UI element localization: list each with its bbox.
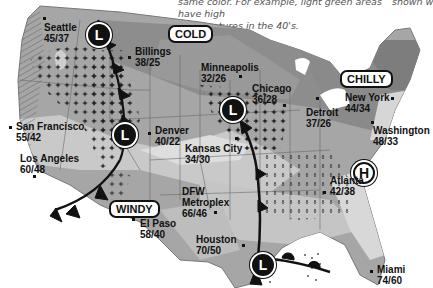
city-name: Seattle	[44, 22, 77, 33]
city-name: Detroit	[306, 107, 338, 118]
city-name: Atlanta	[330, 175, 364, 186]
city-chicago: Chicago 36/28	[252, 83, 291, 105]
city-name: Kansas City	[185, 143, 242, 154]
city-name: Washington	[373, 125, 430, 136]
city-temp: 38/25	[135, 57, 171, 68]
city-marker	[9, 126, 12, 129]
city-temp: 66/46	[182, 208, 229, 219]
city-temp: 48/33	[373, 136, 430, 147]
city-temp: 70/50	[196, 245, 237, 256]
city-temp: 32/26	[201, 73, 259, 84]
low-pressure-icon: L	[250, 252, 276, 278]
city-name: Miami	[377, 264, 405, 275]
city-name: Denver	[155, 125, 189, 136]
city-marker	[370, 270, 373, 273]
city-temp: 40/22	[155, 136, 189, 147]
city-name: El Paso	[140, 218, 176, 229]
city-name: New York	[345, 92, 390, 103]
city-temp: 37/26	[306, 118, 338, 129]
low-pressure-icon: L	[86, 22, 112, 48]
low-pressure-icon: L	[112, 122, 138, 148]
city-temp: 42/38	[330, 186, 364, 197]
city-temp: 74/60	[377, 275, 405, 286]
city-denver: Denver 40/22	[155, 125, 189, 147]
city-miami: Miami 74/60	[377, 264, 405, 286]
city-dfw-metroplex: DFW Metroplex 66/46	[182, 186, 229, 219]
city-marker	[132, 218, 135, 221]
city-detroit: Detroit 37/26	[306, 107, 338, 129]
city-billings: Billings 38/25	[135, 46, 171, 68]
chilly-label: CHILLY	[340, 70, 393, 88]
city-atlanta: Atlanta 42/38	[330, 175, 364, 197]
city-temp: 58/40	[140, 229, 176, 240]
city-san-francisco: San Francisco 55/42	[16, 121, 84, 143]
city-marker	[235, 137, 238, 140]
city-el-paso: El Paso 58/40	[140, 218, 176, 240]
city-temp: 44/34	[345, 103, 390, 114]
city-seattle: Seattle 45/37	[44, 22, 77, 44]
city-new-york: New York 44/34	[345, 92, 390, 114]
city-temp: 60/48	[20, 164, 79, 175]
city-houston: Houston 70/50	[196, 234, 237, 256]
city-kansas-city: Kansas City 34/30	[185, 143, 242, 165]
city-name: Houston	[196, 234, 237, 245]
city-marker	[242, 244, 245, 247]
city-name: San Francisco	[16, 121, 84, 132]
city-temp: 45/37	[44, 33, 77, 44]
city-marker	[391, 97, 394, 100]
city-name-line-2: Metroplex	[182, 197, 229, 208]
city-marker	[43, 17, 46, 20]
low-pressure-icon: L	[220, 97, 246, 123]
city-name: Los Angeles	[20, 153, 79, 164]
city-marker	[148, 132, 151, 135]
city-washington: Washington 48/33	[373, 125, 430, 147]
city-marker	[33, 175, 36, 178]
city-temp: 34/30	[185, 154, 242, 165]
city-name: Billings	[135, 46, 171, 57]
city-temp: 55/42	[16, 132, 84, 143]
city-los-angeles: Los Angeles 60/48	[20, 153, 79, 175]
city-marker	[128, 56, 131, 59]
city-marker	[316, 97, 319, 100]
city-name: Minneapolis	[201, 62, 259, 73]
city-name-line-1: DFW	[182, 186, 229, 197]
city-marker	[371, 121, 374, 124]
city-name: Chicago	[252, 83, 291, 94]
windy-label: WINDY	[109, 200, 160, 218]
city-marker	[323, 191, 326, 194]
cold-label: COLD	[168, 25, 213, 43]
city-minneapolis: Minneapolis 32/26	[201, 62, 259, 84]
city-temp: 36/28	[252, 94, 291, 105]
